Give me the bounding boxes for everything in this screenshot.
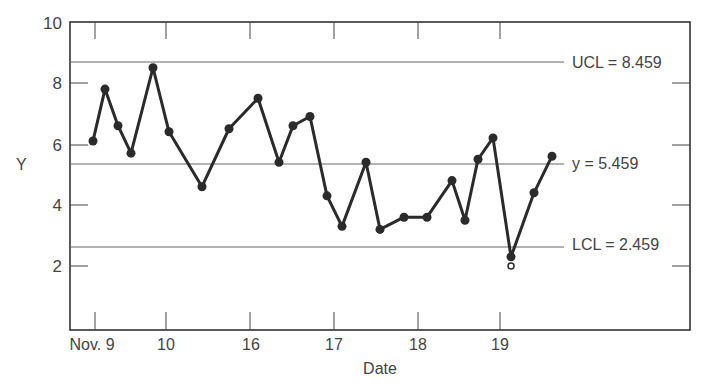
x-axis-title: Date	[363, 360, 397, 377]
y-tick-label: 8	[53, 74, 62, 93]
ucl-label: UCL = 8.459	[572, 54, 662, 71]
data-point-marker	[507, 252, 516, 261]
open-circle-marker	[508, 263, 514, 269]
center-label: y = 5.459	[572, 155, 638, 172]
y-tick-label: 4	[53, 196, 62, 215]
data-point-marker	[89, 136, 98, 145]
data-point-marker	[448, 176, 457, 185]
data-point-marker	[461, 216, 470, 225]
right-y-ticks	[672, 83, 690, 266]
lcl-label: LCL = 2.459	[572, 236, 659, 253]
x-tick-label: 16	[242, 336, 260, 353]
data-point-marker	[400, 213, 409, 222]
x-tick-label: 18	[409, 336, 427, 353]
data-point-marker	[198, 182, 207, 191]
y-tick-label: 6	[53, 136, 62, 155]
data-point-marker	[323, 191, 332, 200]
data-series	[89, 63, 557, 269]
control-chart: UCL = 8.459 y = 5.459 LCL = 2.459 10 8 6…	[0, 0, 705, 387]
y-axis-title: Y	[16, 156, 27, 173]
data-point-marker	[338, 222, 347, 231]
data-point-marker	[225, 124, 234, 133]
data-point-marker	[306, 112, 315, 121]
data-point-marker	[530, 188, 539, 197]
data-point-marker	[101, 85, 110, 94]
data-point-marker	[165, 127, 174, 136]
data-point-marker	[254, 94, 263, 103]
x-tick-label: 10	[157, 336, 175, 353]
x-axis-ticks	[95, 312, 500, 330]
x-tick-label: Nov. 9	[69, 336, 114, 353]
data-point-marker	[289, 121, 298, 130]
data-point-marker	[376, 225, 385, 234]
data-point-marker	[127, 149, 136, 158]
y-axis-ticks	[70, 83, 88, 266]
top-x-ticks	[95, 22, 500, 39]
data-point-marker	[474, 155, 483, 164]
x-tick-label: 19	[491, 336, 509, 353]
data-point-marker	[423, 213, 432, 222]
data-point-marker	[548, 152, 557, 161]
data-point-marker	[149, 63, 158, 72]
data-point-marker	[275, 158, 284, 167]
y-tick-label: 2	[53, 257, 62, 276]
series-line	[93, 68, 552, 257]
data-point-marker	[362, 158, 371, 167]
y-tick-label: 10	[43, 14, 62, 33]
data-point-marker	[114, 121, 123, 130]
x-tick-label: 17	[325, 336, 343, 353]
data-point-marker	[489, 133, 498, 142]
